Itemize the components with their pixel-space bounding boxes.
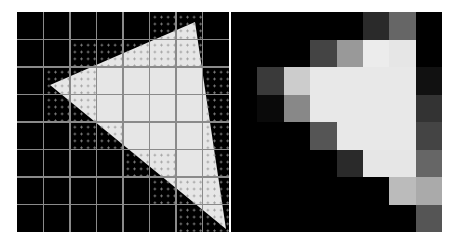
coverage-pixel — [389, 40, 416, 68]
coverage-pixel — [389, 205, 416, 233]
coverage-pixel — [310, 205, 337, 233]
coverage-pixel — [257, 95, 284, 123]
coverage-pixel — [257, 205, 284, 233]
coverage-pixel — [416, 67, 442, 95]
coverage-pixel — [310, 40, 337, 68]
coverage-pixel — [310, 177, 337, 205]
coverage-pixel — [389, 67, 416, 95]
coverage-pixel — [337, 150, 364, 178]
grid-line-horizontal — [17, 66, 229, 68]
coverage-pixel — [310, 95, 337, 123]
coverage-pixel — [310, 12, 337, 40]
grid-line-horizontal — [17, 121, 229, 123]
coverage-pixel — [416, 205, 442, 233]
antialiased-pixel-panel — [231, 12, 442, 232]
grid-line-horizontal — [17, 204, 229, 206]
coverage-pixel — [389, 12, 416, 40]
coverage-pixel — [284, 122, 311, 150]
coverage-pixel — [337, 95, 364, 123]
grid-line-horizontal — [17, 39, 229, 41]
coverage-pixel — [231, 205, 258, 233]
coverage-pixel — [310, 67, 337, 95]
coverage-pixel — [363, 40, 390, 68]
coverage-pixel — [363, 95, 390, 123]
coverage-pixel — [257, 40, 284, 68]
coverage-pixel — [416, 95, 442, 123]
coverage-pixel — [284, 12, 311, 40]
coverage-pixel — [363, 122, 390, 150]
coverage-pixel — [337, 67, 364, 95]
coverage-pixel — [416, 12, 442, 40]
coverage-pixel — [257, 12, 284, 40]
coverage-pixel — [257, 150, 284, 178]
coverage-pixel — [416, 150, 442, 178]
coverage-pixel — [231, 67, 258, 95]
coverage-pixel — [284, 95, 311, 123]
coverage-pixel — [284, 67, 311, 95]
coverage-pixel — [231, 40, 258, 68]
coverage-pixel — [389, 177, 416, 205]
coverage-pixel — [231, 177, 258, 205]
coverage-pixel — [416, 177, 442, 205]
coverage-pixel — [337, 12, 364, 40]
coverage-pixel — [284, 150, 311, 178]
coverage-pixel — [310, 122, 337, 150]
triangle-sample-grid-panel — [17, 12, 229, 232]
coverage-pixel — [337, 205, 364, 233]
coverage-pixel — [363, 205, 390, 233]
coverage-pixel — [363, 150, 390, 178]
coverage-pixel — [416, 40, 442, 68]
coverage-pixel — [257, 122, 284, 150]
coverage-pixel — [363, 67, 390, 95]
coverage-pixel — [257, 177, 284, 205]
coverage-pixel — [231, 122, 258, 150]
coverage-pixel — [284, 40, 311, 68]
coverage-pixel — [389, 122, 416, 150]
coverage-pixel — [310, 150, 337, 178]
coverage-pixel — [257, 67, 284, 95]
coverage-pixel — [416, 122, 442, 150]
coverage-pixel — [363, 177, 390, 205]
coverage-pixel — [231, 150, 258, 178]
coverage-pixel — [389, 95, 416, 123]
coverage-pixel — [284, 205, 311, 233]
grid-line-horizontal — [17, 149, 229, 151]
grid-line-horizontal — [17, 176, 229, 178]
coverage-pixel — [284, 177, 311, 205]
coverage-pixel — [231, 95, 258, 123]
coverage-pixel — [389, 150, 416, 178]
coverage-pixel — [337, 40, 364, 68]
coverage-pixel — [231, 12, 258, 40]
coverage-pixel — [337, 177, 364, 205]
coverage-pixel — [363, 12, 390, 40]
coverage-pixel — [337, 122, 364, 150]
grid-line-horizontal — [17, 94, 229, 96]
